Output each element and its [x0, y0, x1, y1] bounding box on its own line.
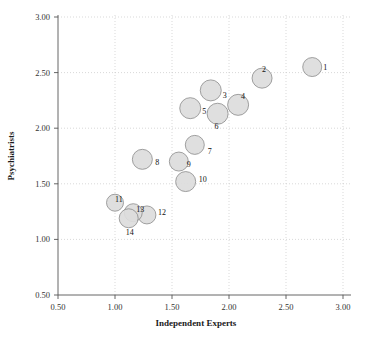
gridlines [58, 15, 351, 295]
data-point-label: 14 [126, 228, 134, 237]
y-tick-label: 2.50 [35, 68, 50, 78]
data-point-bubble [180, 98, 201, 119]
data-point-label: 2 [262, 65, 266, 74]
axis-lines [58, 15, 351, 295]
y-tick-label: 2.00 [35, 123, 50, 133]
data-point-label: 13 [136, 205, 144, 214]
tick-marks [54, 17, 343, 299]
data-point-label: 4 [241, 92, 245, 101]
scatter-plot: 0.501.001.502.002.503.00 0.501.001.502.0… [0, 0, 365, 338]
y-axis-tick-labels: 0.501.001.502.002.503.00 [35, 12, 50, 300]
data-point-label: 10 [199, 175, 207, 184]
data-point-bubble [185, 135, 204, 154]
x-tick-label: 2.00 [222, 302, 237, 312]
x-tick-label: 1.00 [108, 302, 123, 312]
data-point-bubble [200, 80, 221, 101]
data-point-label: 1 [323, 63, 327, 72]
y-tick-label: 1.00 [35, 234, 50, 244]
data-point-label: 12 [158, 208, 166, 217]
y-tick-label: 1.50 [35, 179, 50, 189]
x-tick-label: 2.50 [279, 302, 294, 312]
y-axis-title: Psychiatrists [6, 131, 16, 180]
data-points [107, 58, 322, 228]
y-tick-label: 0.50 [35, 290, 50, 300]
x-tick-label: 3.00 [336, 302, 351, 312]
data-point-label: 6 [215, 122, 219, 131]
data-point-bubble [169, 152, 188, 171]
x-axis-tick-labels: 0.501.001.502.002.503.00 [51, 302, 351, 312]
chart-container: 0.501.001.502.002.503.00 0.501.001.502.0… [0, 0, 365, 338]
data-point-label: 8 [155, 158, 159, 167]
data-point-label: 7 [208, 147, 212, 156]
data-point-label: 3 [223, 91, 227, 100]
data-point-bubble [228, 94, 249, 115]
data-point-label: 11 [115, 195, 123, 204]
data-point-bubble [303, 58, 322, 77]
y-tick-label: 3.00 [35, 12, 50, 22]
x-axis-title: Independent Experts [156, 318, 237, 328]
x-tick-label: 0.50 [51, 302, 66, 312]
data-point-bubble [132, 149, 152, 169]
data-point-bubble [176, 172, 196, 192]
data-point-label: 5 [202, 107, 206, 116]
x-tick-label: 1.50 [165, 302, 180, 312]
data-point-label: 9 [187, 160, 191, 169]
